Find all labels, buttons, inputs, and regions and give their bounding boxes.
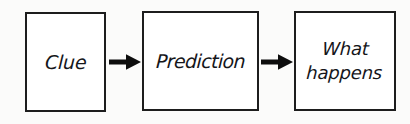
flowchart-node-prediction: Prediction [142, 11, 259, 111]
arrow-clue-to-prediction-icon [108, 50, 142, 74]
arrow-prediction-to-outcome-icon [260, 50, 294, 74]
flowchart-node-what-happens: What happens [294, 11, 396, 111]
flowchart-diagram: Clue Prediction What happens [0, 0, 410, 124]
flowchart-node-prediction-label: Prediction [154, 51, 246, 72]
flowchart-node-what-happens-label: What happens [305, 37, 385, 85]
flowchart-node-clue-label: Clue [43, 52, 88, 73]
flowchart-node-clue: Clue [25, 12, 106, 112]
